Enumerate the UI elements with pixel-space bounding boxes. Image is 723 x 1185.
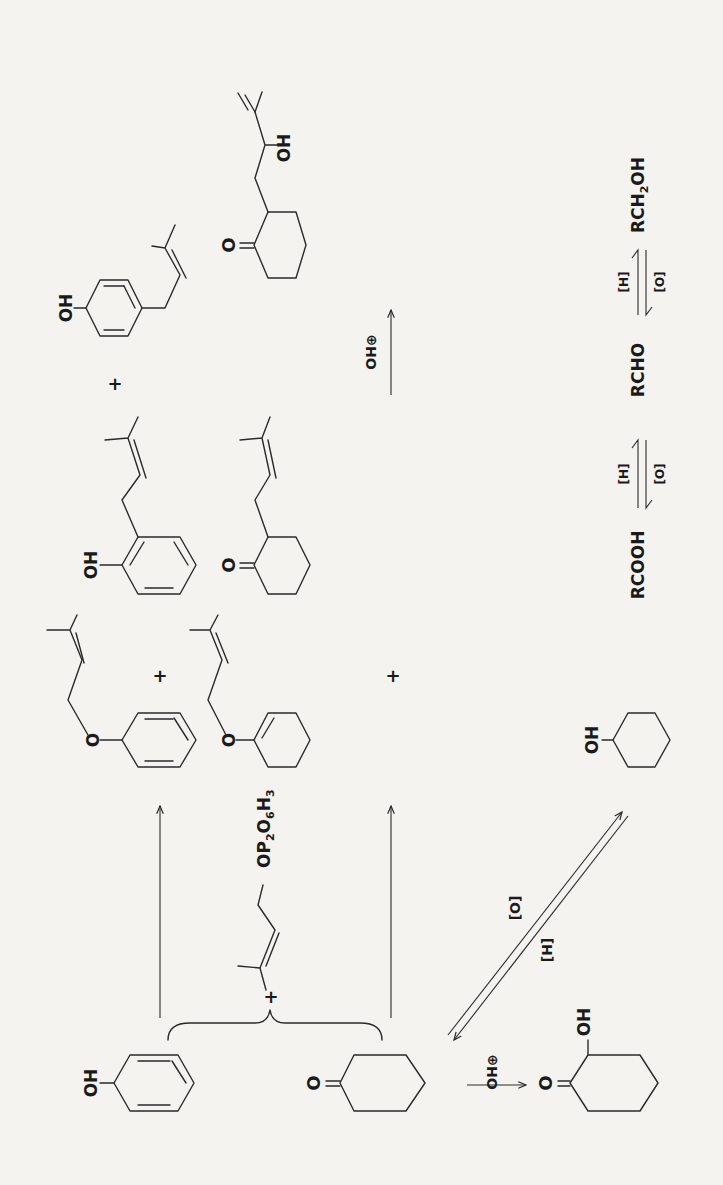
prenyl-enol-ether-structure: O <box>190 615 310 767</box>
eq1-upper-label: [H] <box>617 463 631 484</box>
reaction-scheme: OH O + OP2O6H3 OH⊕ O OH [O] [H] <box>0 0 723 1185</box>
phenol-structure: OH <box>81 1055 194 1111</box>
prenylcyclohexanone-structure: O <box>218 417 310 594</box>
para-prenylphenol-structure: OH <box>56 225 186 336</box>
hydroxy-ketone-o-label: O <box>218 237 239 252</box>
prenyl-pyrophosphate-structure: OP2O6H3 <box>238 789 279 990</box>
equilibrium-arrow-1: [H] [O] <box>617 440 667 508</box>
cyclohexanol-structure: OH <box>582 713 670 767</box>
cyclohexanol-oh-label: OH <box>582 726 602 755</box>
cyclohexanone-structure: O <box>303 1055 425 1111</box>
hydroxyketone-o-label: O <box>535 1075 556 1090</box>
eq1-lower-label: [O] <box>653 463 667 484</box>
hydroxyketone-structure: O OH <box>535 1008 658 1111</box>
rcho-label: RCHO <box>628 343 648 397</box>
eq2-upper-label: [H] <box>617 271 631 292</box>
enol-ether-o-label: O <box>219 733 239 747</box>
ortho-prenylphenol-structure: OH <box>81 417 196 594</box>
cyclohexanone-o-label: O <box>303 1075 324 1090</box>
hydroxylation-reagent-label: OH⊕ <box>484 1054 500 1089</box>
phenyl-prenyl-ether-structure: O <box>47 615 196 767</box>
prenylketone-o-label: O <box>218 557 239 572</box>
rcooh-label: RCOOH <box>628 531 648 600</box>
pyrophosphate-label: OP2O6H3 <box>254 789 277 868</box>
hydroxyketone-oh-label: OH <box>574 1008 594 1037</box>
reactant-brace <box>168 1010 382 1040</box>
oxidation-label: [O] <box>507 896 523 921</box>
arrow-oxidation <box>448 812 622 1035</box>
phenol-oh-label: OH <box>81 1069 101 1098</box>
eq2-lower-label: [O] <box>653 271 667 292</box>
plus-1: + <box>152 665 167 686</box>
reduction-label: [H] <box>539 938 555 963</box>
plus-2: + <box>107 373 122 394</box>
equilibrium-arrow-2: [H] [O] <box>617 250 667 315</box>
ketone-hydroxylation-reagent: OH⊕ <box>363 334 379 369</box>
arrow-reduction <box>454 816 628 1040</box>
hydroxy-ketone-oh-label: OH <box>274 134 294 163</box>
plus-3: + <box>385 665 400 686</box>
hydroxy-alkyl-ketone-structure: O OH <box>218 92 306 278</box>
rch2oh-label: RCH2OH <box>628 157 651 233</box>
para-oh-label: OH <box>56 294 76 323</box>
ortho-oh-label: OH <box>81 551 101 580</box>
ether-o-label: O <box>83 733 103 747</box>
